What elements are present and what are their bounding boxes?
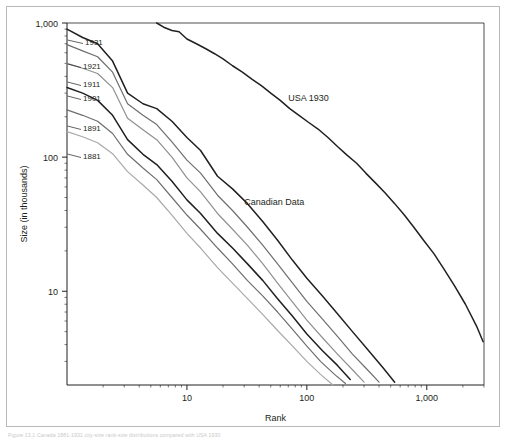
series-leader-1921 [68,64,82,68]
y-tick-label-1,000: 1,000 [35,19,58,29]
y-tick-label-100: 100 [43,153,58,163]
series-leader-1901 [68,96,82,100]
y-tick-label-10: 10 [48,287,58,297]
series-label-1881: 1881 [83,152,101,161]
series-leader-1911 [68,82,82,86]
series-label-1921: 1921 [83,62,101,71]
x-tick-label-1,000: 1,000 [416,393,439,403]
series-leader-1881 [68,154,82,158]
figure-page: 101001,0001,00010010RankSize (in thousan… [0,0,508,441]
rank-size-log-log-chart: 101001,0001,00010010RankSize (in thousan… [7,7,499,426]
series-line-1911 [67,63,364,382]
series-label-1901: 1901 [83,94,101,103]
series-label-1891: 1891 [83,124,101,133]
series-line-1881 [67,132,333,385]
x-tick-label-10: 10 [182,393,192,403]
figure-frame: 101001,0001,00010010RankSize (in thousan… [6,6,500,427]
figure-caption: Figure 13.1 Canada 1881-1931 city-size r… [8,432,500,439]
series-label-1931: 1931 [85,38,103,47]
x-axis-title: Rank [265,413,287,423]
annotation-usa-1930: USA 1930 [288,93,329,103]
y-axis-title: Size (in thousands) [19,165,29,242]
series-line-1931 [67,29,395,382]
series-line-1921 [67,45,379,383]
series-leader-1931 [68,40,84,44]
x-tick-label-100: 100 [299,393,314,403]
series-label-1911: 1911 [83,80,101,89]
annotation-canadian-data: Canadian Data [244,197,304,207]
series-leader-1891 [68,126,82,130]
